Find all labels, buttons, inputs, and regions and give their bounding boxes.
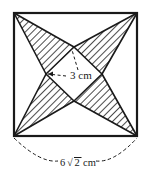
outer-dimension-coefficient: 6 xyxy=(60,157,65,168)
outer-dimension-label: 6 √ 2 cm xyxy=(60,157,96,168)
radical-sign-icon: √ xyxy=(67,157,73,168)
outer-dimension-arc-left xyxy=(14,138,58,161)
outer-dimension-arc-right xyxy=(96,138,137,161)
geometry-figure-svg: 3 cm 6 √ 2 cm xyxy=(0,0,152,176)
geometry-figure: 3 cm 6 √ 2 cm xyxy=(0,0,152,176)
outer-dimension-unit: cm xyxy=(83,157,96,168)
inner-dimension-label: 3 cm xyxy=(70,69,92,81)
outer-dimension-radicand: 2 xyxy=(75,157,80,168)
